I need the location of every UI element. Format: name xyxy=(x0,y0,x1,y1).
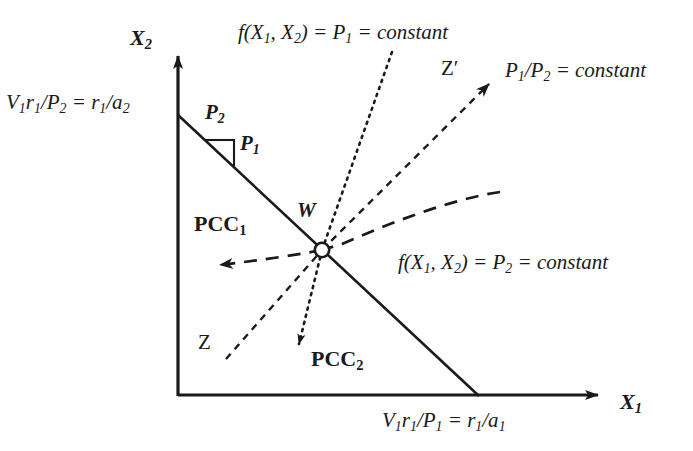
z-ray xyxy=(226,250,322,359)
pcc2-label: PCC2 xyxy=(311,348,363,373)
isoquant-p2-label: f(X1, X2) = P2 = constant xyxy=(398,252,608,276)
point-w-label: W xyxy=(297,200,316,221)
price-ratio-label: P1/P2 = constant xyxy=(505,60,646,84)
x-intercept-label: V1r1/P1 = r1/a1 xyxy=(382,410,506,434)
y-axis-label: X2 xyxy=(130,27,152,52)
point-w-marker xyxy=(315,243,329,257)
slope-rise-label: P2 xyxy=(205,102,225,126)
pcc1-arrow-segment xyxy=(220,250,322,265)
z-label: Z xyxy=(198,332,211,353)
pcc1-curve xyxy=(322,192,500,250)
pcc2-upper-segment xyxy=(322,52,392,250)
x-axis-label: X1 xyxy=(620,391,642,416)
isoquant-p1-label: f(X1, X2) = P1 = constant xyxy=(238,22,448,46)
z-prime-ray xyxy=(322,84,489,250)
slope-run-label: P1 xyxy=(240,133,260,157)
economics-diagram-figure: X2 X1 V1r1/P2 = r1/a2 V1r1/P1 = r1/a1 P2… xyxy=(0,0,693,451)
pcc1-label: PCC1 xyxy=(194,213,246,238)
z-prime-label: Z′ xyxy=(441,58,458,79)
pcc2-arrow-segment xyxy=(299,250,322,344)
y-intercept-label: V1r1/P2 = r1/a2 xyxy=(6,92,130,116)
